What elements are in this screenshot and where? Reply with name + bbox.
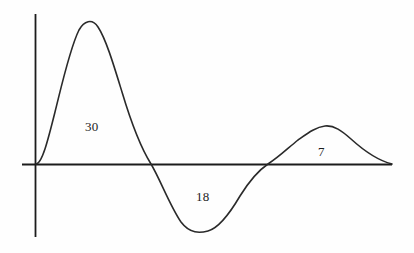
area-label-lobe-1: 30 <box>85 120 99 133</box>
figure-root: 30 18 7 <box>0 0 414 253</box>
area-label-lobe-3: 7 <box>318 145 325 158</box>
plot-background <box>0 0 414 253</box>
area-label-lobe-2: 18 <box>196 190 210 203</box>
damped-sine-plot <box>0 0 414 253</box>
